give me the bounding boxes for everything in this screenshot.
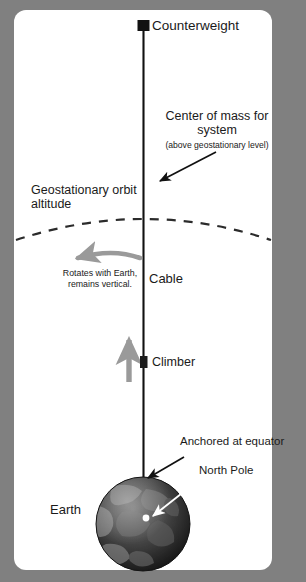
earth-globe xyxy=(92,477,190,571)
space-elevator-diagram xyxy=(0,0,306,582)
label-anchored-at-equator: Anchored at equator xyxy=(180,435,284,448)
climber-marker xyxy=(140,356,148,368)
label-earth: Earth xyxy=(50,503,81,518)
label-climber: Climber xyxy=(152,355,195,369)
label-geostationary-orbit-altitude: Geostationary orbit altitude xyxy=(31,183,151,212)
north-pole-dot xyxy=(143,515,150,522)
counterweight-marker xyxy=(138,20,150,31)
center-of-mass-arrow xyxy=(160,152,216,181)
label-counterweight: Counterweight xyxy=(152,18,239,33)
label-rotates-with-earth: Rotates with Earth, remains vertical. xyxy=(54,268,146,289)
rotation-arrow xyxy=(78,253,140,258)
label-center-of-mass-note: (above geostationary level) xyxy=(152,141,282,151)
label-north-pole: North Pole xyxy=(199,464,253,477)
label-center-of-mass: Center of mass for system xyxy=(160,109,274,137)
figure-root: Counterweight Center of mass for system … xyxy=(0,0,306,582)
label-cable: Cable xyxy=(149,272,183,287)
anchored-at-equator-arrow xyxy=(148,457,184,478)
